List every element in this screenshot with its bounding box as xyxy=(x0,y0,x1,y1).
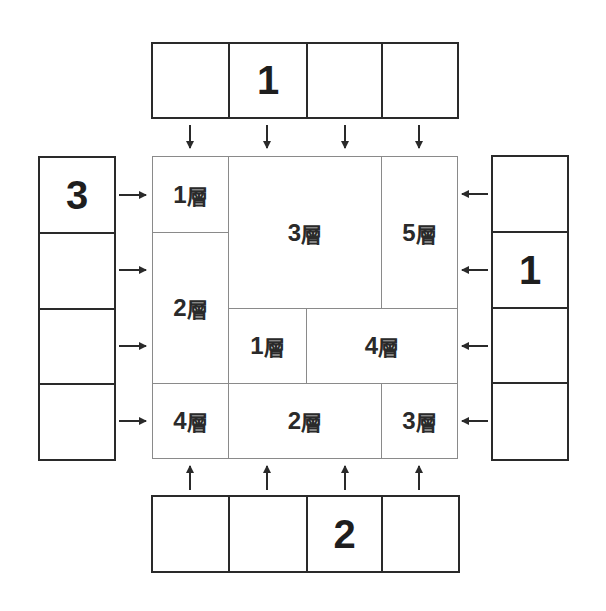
direction-arrows xyxy=(0,0,606,611)
